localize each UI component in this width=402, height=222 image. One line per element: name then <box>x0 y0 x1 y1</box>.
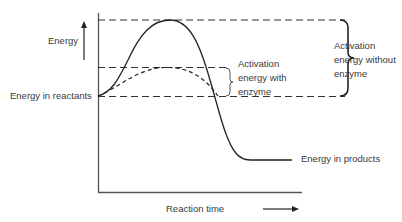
activation-without-enzyme-line-2: energy without <box>334 54 396 66</box>
energy-diagram <box>0 0 402 222</box>
activation-with-enzyme-line-3: enzyme <box>238 86 287 98</box>
activation-with-enzyme-line-1: Activation <box>238 58 287 70</box>
activation-with-enzyme-line-2: energy with <box>238 72 287 84</box>
activation-without-enzyme-label: Activation energy without enzyme <box>334 40 396 80</box>
energy-in-products-label: Energy in products <box>301 153 380 165</box>
energy-in-reactants-label: Energy in reactants <box>10 90 92 102</box>
time-arrow-head <box>292 206 299 212</box>
reaction-time-label: Reaction time <box>166 203 224 215</box>
energy-arrow-head <box>81 21 87 28</box>
brace-with-enzyme <box>226 68 233 96</box>
activation-with-enzyme-label: Activation energy with enzyme <box>238 58 287 98</box>
energy-label: Energy <box>48 35 78 47</box>
activation-without-enzyme-line-3: enzyme <box>334 68 396 80</box>
activation-without-enzyme-line-1: Activation <box>334 40 396 52</box>
